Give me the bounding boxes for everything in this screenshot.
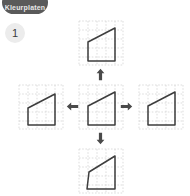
- shape-left: [28, 94, 55, 125]
- grid-lines-bottom: [79, 149, 123, 193]
- shape-panel-center: [78, 84, 124, 130]
- shape-panel-bottom: [78, 148, 124, 194]
- arrow-down-icon: [94, 132, 107, 145]
- shape-top: [88, 28, 115, 61]
- shape-panel-top: [78, 20, 124, 66]
- shape-center: [88, 92, 115, 125]
- shape-panel-left: [18, 84, 64, 130]
- grid-lines-top: [79, 21, 123, 65]
- exercise-number-badge: 1: [5, 23, 25, 43]
- arrow-left-icon: [66, 100, 79, 113]
- grid-lines-center: [79, 85, 123, 129]
- shape-right: [148, 92, 175, 125]
- arrow-up-icon: [94, 68, 107, 81]
- arrow-right-icon: [120, 100, 133, 113]
- brand-logo-badge: Kleurplaten: [2, 0, 48, 14]
- grid-lines-left: [19, 85, 63, 129]
- brand-logo-label: Kleurplaten: [5, 4, 46, 14]
- shape-bottom: [87, 156, 115, 189]
- shape-panel-right: [138, 84, 184, 130]
- grid-lines-right: [139, 85, 183, 129]
- exercise-number-label: 1: [12, 28, 18, 39]
- worksheet-page: Kleurplaten 1: [0, 0, 190, 196]
